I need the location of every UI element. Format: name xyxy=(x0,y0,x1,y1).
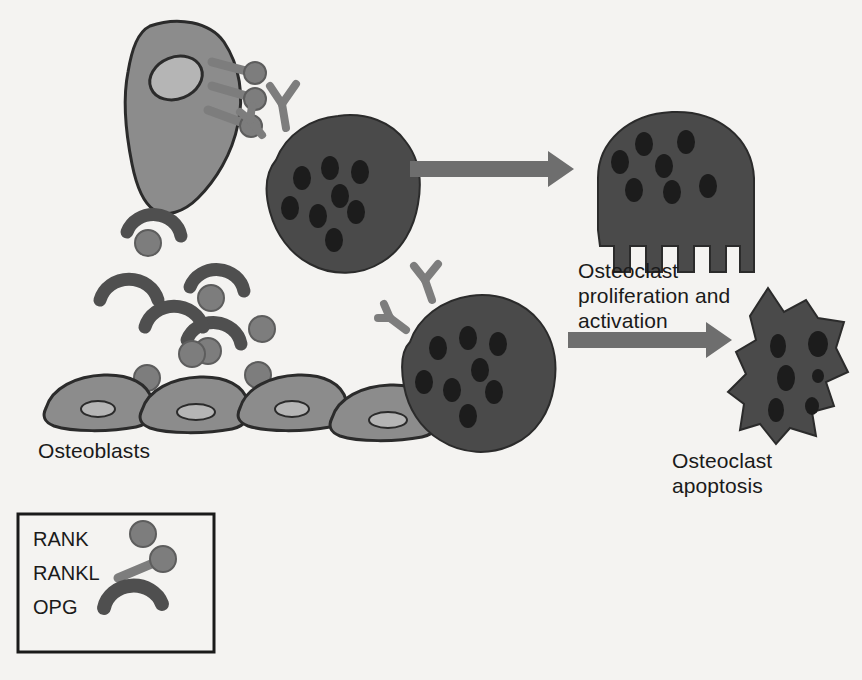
label-osteoclast-proliferation: Osteoclast proliferation and activation xyxy=(578,258,730,333)
osteoblast-cell xyxy=(44,375,153,431)
opg-with-rank xyxy=(190,270,244,311)
opg-arc-icon xyxy=(100,279,158,300)
opg-arc-icon xyxy=(104,586,162,608)
rank-receptor xyxy=(414,264,438,300)
label-osteoblasts: Osteoblasts xyxy=(38,438,150,463)
rank-circle-icon xyxy=(135,230,161,256)
figure-canvas: Osteoblasts Osteoclast proliferation and… xyxy=(0,0,862,680)
rankl-bound-osteoclast xyxy=(267,115,420,273)
diagram-illustration xyxy=(0,0,862,680)
rank-circle-icon xyxy=(249,316,275,342)
legend-label-opg: OPG xyxy=(33,596,77,618)
osteoblast-row xyxy=(44,375,439,441)
opg-with-rank xyxy=(127,215,181,256)
legend-label-rankl: RANKL xyxy=(33,562,100,584)
legend-label-rank: RANK xyxy=(33,528,89,550)
activated-osteoclast xyxy=(598,112,754,272)
rankl-stalk-icon xyxy=(118,546,176,578)
rank-receptor xyxy=(378,304,406,330)
molecule-field xyxy=(100,215,275,391)
opg-blocked-osteoclast xyxy=(402,295,555,452)
rank-receptor xyxy=(270,84,296,128)
label-osteoclast-apoptosis: Osteoclast apoptosis xyxy=(672,448,772,498)
rank-circle-icon xyxy=(130,521,156,547)
rank-circle-icon xyxy=(198,285,224,311)
arrow-activation xyxy=(410,151,574,187)
apoptotic-osteoclast xyxy=(728,288,848,444)
rank-circle-icon xyxy=(179,341,205,367)
